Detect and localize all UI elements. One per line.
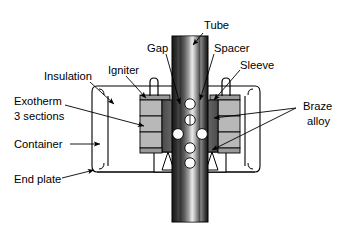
- label-gap: Gap: [147, 42, 168, 54]
- igniter-left: [150, 78, 158, 96]
- exotherm-section: [140, 100, 162, 116]
- exotherm-section: [140, 116, 162, 132]
- exotherm-section: [218, 100, 240, 116]
- label-end-plate: End plate: [14, 173, 61, 185]
- leader-endplate: [62, 170, 94, 178]
- leader-igniter: [126, 76, 146, 98]
- exotherm-left: [140, 95, 174, 153]
- label-braze-line2: alloy: [307, 115, 330, 127]
- exotherm-section: [218, 116, 240, 132]
- label-igniter: Igniter: [108, 64, 139, 76]
- label-insulation: Insulation: [44, 70, 92, 82]
- label-container: Container: [14, 138, 63, 150]
- exotherm-section: [140, 132, 162, 148]
- assembly-diagram: Tube Gap Spacer Sleeve Igniter Insulatio…: [0, 0, 356, 227]
- leader-exotherm: [65, 105, 144, 126]
- label-sleeve: Sleeve: [240, 59, 274, 71]
- label-spacer: Spacer: [214, 42, 250, 54]
- diagram-canvas: Tube Gap Spacer Sleeve Igniter Insulatio…: [0, 0, 356, 227]
- diagram-body: Tube Gap Spacer Sleeve Igniter Insulatio…: [14, 19, 332, 222]
- igniter-right: [222, 78, 230, 96]
- label-braze-line1: Braze: [303, 100, 332, 112]
- label-exotherm-line2: 3 sections: [14, 110, 65, 122]
- leader-insulation: [90, 82, 114, 104]
- label-tube: Tube: [204, 19, 229, 31]
- label-exotherm-line1: Exotherm: [14, 95, 62, 107]
